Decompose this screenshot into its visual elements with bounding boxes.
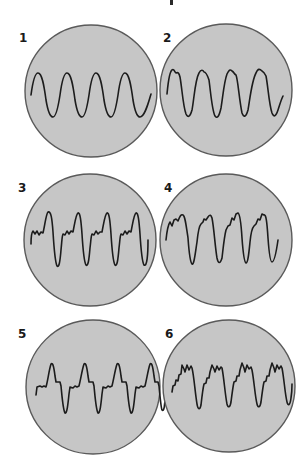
oscilloscope-panels — [0, 0, 307, 465]
oscilloscope-screen-6 — [163, 320, 295, 452]
panel-4 — [160, 174, 292, 306]
waveform-figure: 1 2 3 4 5 6 — [0, 0, 307, 465]
panel-label-1: 1 — [19, 32, 27, 44]
panel-3 — [24, 174, 156, 306]
oscilloscope-screen-2 — [160, 24, 292, 156]
panel-label-5: 5 — [18, 328, 26, 340]
oscilloscope-screen-4 — [160, 174, 292, 306]
panel-label-4: 4 — [164, 182, 172, 194]
panel-6 — [163, 320, 295, 452]
panel-label-2: 2 — [163, 32, 171, 44]
panel-2 — [160, 24, 292, 156]
panel-1 — [25, 25, 157, 157]
panel-label-3: 3 — [18, 182, 26, 194]
panel-label-6: 6 — [165, 328, 173, 340]
oscilloscope-screen-3 — [24, 174, 156, 306]
panel-5 — [26, 320, 165, 454]
